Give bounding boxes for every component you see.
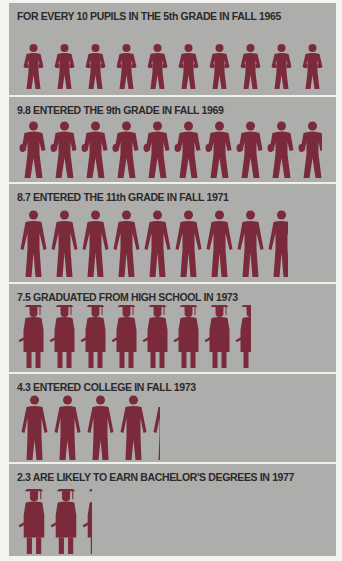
youth-figure-icon	[173, 209, 204, 279]
pictogram-figures	[18, 394, 160, 462]
child-figure-icon	[204, 43, 235, 91]
teen-figure-icon	[235, 120, 266, 180]
teen-figure-icon	[49, 120, 80, 180]
graduate-figure-icon	[18, 486, 50, 556]
youth-figure-icon	[18, 209, 49, 279]
row-5th-grade: FOR EVERY 10 PUPILS IN THE 5th GRADE IN …	[9, 3, 336, 95]
suit-figure-icon	[51, 394, 84, 462]
suit-figure-icon	[18, 394, 51, 462]
youth-figure-icon	[80, 209, 111, 279]
child-figure-icon	[49, 43, 80, 91]
pictogram-figures	[18, 209, 288, 279]
child-figure-icon	[266, 43, 297, 91]
youth-figure-icon	[235, 209, 266, 279]
child-figure-icon	[297, 43, 328, 91]
child-figure-icon	[235, 43, 266, 91]
row-label: 8.7 ENTERED THE 11th GRADE IN FALL 1971	[17, 191, 228, 203]
row-label: 2.3 ARE LIKELY TO EARN BACHELOR'S DEGREE…	[17, 471, 294, 483]
youth-figure-icon	[266, 209, 288, 279]
child-figure-icon	[80, 43, 111, 91]
child-figure-icon	[18, 43, 49, 91]
row-graduated-high-school: 7.5 GRADUATED FROM HIGH SCHOOL IN 1973	[9, 284, 336, 372]
row-label: 9.8 ENTERED THE 9th GRADE IN FALL 1969	[17, 104, 223, 116]
row-label: 4.3 ENTERED COLLEGE IN FALL 1973	[17, 381, 196, 393]
youth-figure-icon	[142, 209, 173, 279]
teen-figure-icon	[204, 120, 235, 180]
child-figure-icon	[142, 43, 173, 91]
teen-figure-icon	[297, 120, 322, 180]
graduate-figure-icon	[204, 302, 235, 370]
youth-figure-icon	[111, 209, 142, 279]
graduate-figure-icon	[173, 302, 204, 370]
suit-figure-icon	[150, 394, 160, 462]
teen-figure-icon	[18, 120, 49, 180]
row-11th-grade: 8.7 ENTERED THE 11th GRADE IN FALL 1971	[9, 184, 336, 282]
pictogram-figures	[18, 302, 251, 370]
infographic-panel: FOR EVERY 10 PUPILS IN THE 5th GRADE IN …	[9, 3, 336, 556]
graduate-figure-icon	[142, 302, 173, 370]
graduate-figure-icon	[50, 486, 82, 556]
youth-figure-icon	[204, 209, 235, 279]
row-entered-college: 4.3 ENTERED COLLEGE IN FALL 1973	[9, 374, 336, 462]
graduate-figure-icon	[235, 302, 251, 370]
child-figure-icon	[173, 43, 204, 91]
graduate-figure-icon	[80, 302, 111, 370]
suit-figure-icon	[84, 394, 117, 462]
teen-figure-icon	[173, 120, 204, 180]
row-label: FOR EVERY 10 PUPILS IN THE 5th GRADE IN …	[17, 10, 281, 22]
teen-figure-icon	[142, 120, 173, 180]
teen-figure-icon	[266, 120, 297, 180]
teen-figure-icon	[80, 120, 111, 180]
teen-figure-icon	[111, 120, 142, 180]
row-9th-grade: 9.8 ENTERED THE 9th GRADE IN FALL 1969	[9, 97, 336, 182]
graduate-figure-icon	[111, 302, 142, 370]
pictogram-figures	[18, 120, 322, 180]
child-figure-icon	[111, 43, 142, 91]
graduate-figure-icon	[49, 302, 80, 370]
row-bachelors-degrees: 2.3 ARE LIKELY TO EARN BACHELOR'S DEGREE…	[9, 464, 336, 556]
graduate-figure-icon	[18, 302, 49, 370]
graduate-figure-icon	[82, 486, 92, 556]
pictogram-figures	[18, 43, 328, 91]
pictogram-figures	[18, 486, 92, 556]
youth-figure-icon	[49, 209, 80, 279]
suit-figure-icon	[117, 394, 150, 462]
